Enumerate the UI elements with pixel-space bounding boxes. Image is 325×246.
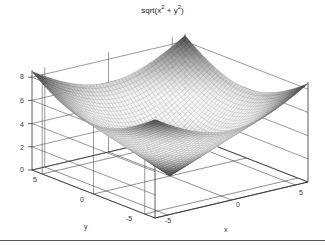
z-tick-6: 6 <box>20 97 24 104</box>
z-tick-2: 2 <box>20 144 24 151</box>
x-tick-5: 5 <box>299 189 303 196</box>
y-tick-neg5: -5 <box>126 215 132 222</box>
surface-plot <box>0 0 325 246</box>
z-tick-4: 4 <box>20 121 24 128</box>
y-tick-5: 5 <box>33 176 37 183</box>
x-tick-neg5: -5 <box>165 217 171 224</box>
z-tick-0: 0 <box>20 166 24 173</box>
figure-divider <box>0 240 325 241</box>
x-tick-0: 0 <box>236 201 240 208</box>
y-axis-label: y <box>84 223 88 230</box>
z-tick-8: 8 <box>20 73 24 80</box>
chart-figure: sqrt(x2 + y2) 8 6 4 2 0 5 0 -5 y -5 0 5 … <box>0 0 325 246</box>
x-axis-label: x <box>224 226 228 233</box>
y-tick-0: 0 <box>80 196 84 203</box>
